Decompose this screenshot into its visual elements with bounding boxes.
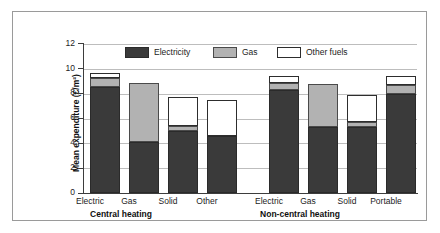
group-label-central-heating: Central heating <box>46 209 196 219</box>
legend-item-gas[interactable]: Gas <box>213 45 258 60</box>
y-tick-label-2: 2 <box>49 163 75 172</box>
bar-noncentral-electric[interactable] <box>269 76 299 193</box>
chart-frame: Mean expenditure (£/m²) 12 10 8 6 4 2 0 <box>12 11 427 221</box>
legend-label-gas: Gas <box>242 48 258 57</box>
y-tick-label-4: 4 <box>49 138 75 147</box>
bar-central-solid[interactable] <box>168 97 198 193</box>
bar-central-electric[interactable] <box>90 73 120 194</box>
chart-legend: Electricity Gas Other fuels <box>125 45 355 62</box>
bar-segment-electricity <box>129 142 159 193</box>
plot-area <box>84 44 417 193</box>
bar-segment-other-fuels <box>386 76 416 85</box>
x-label-noncentral-portable: Portable <box>359 196 413 206</box>
bar-noncentral-solid[interactable] <box>347 95 377 193</box>
chart-figure: Mean expenditure (£/m²) 12 10 8 6 4 2 0 <box>0 0 440 233</box>
bar-segment-electricity <box>347 127 377 193</box>
bar-segment-other-fuels <box>347 95 377 122</box>
legend-item-electricity[interactable]: Electricity <box>125 45 190 60</box>
bar-central-gas[interactable] <box>129 83 159 194</box>
gas-swatch-icon <box>213 47 237 58</box>
bar-central-other[interactable] <box>207 100 237 193</box>
bar-noncentral-portable[interactable] <box>386 76 416 193</box>
bar-segment-gas <box>90 78 120 88</box>
bar-segment-electricity <box>168 131 198 193</box>
gridline-10 <box>84 69 417 70</box>
bar-segment-gas <box>386 85 416 94</box>
y-tick-label-10: 10 <box>49 64 75 73</box>
bar-segment-electricity <box>90 87 120 193</box>
bar-segment-gas <box>269 83 299 90</box>
bar-noncentral-gas[interactable] <box>308 84 338 193</box>
group-label-non-central-heating: Non-central heating <box>225 209 375 219</box>
legend-label-other-fuels: Other fuels <box>306 48 348 57</box>
bar-segment-gas <box>129 83 159 143</box>
y-tick-label-6: 6 <box>49 113 75 122</box>
electricity-swatch-icon <box>125 47 149 58</box>
bar-segment-other-fuels <box>207 100 237 136</box>
bar-segment-other-fuels <box>168 97 198 126</box>
x-axis-line <box>83 193 418 194</box>
x-label-central-other: Other <box>180 196 234 206</box>
bar-segment-electricity <box>269 90 299 193</box>
legend-item-other-fuels[interactable]: Other fuels <box>277 45 348 60</box>
bar-segment-gas <box>308 84 338 128</box>
bar-segment-electricity <box>386 94 416 193</box>
legend-label-electricity: Electricity <box>154 48 190 57</box>
bar-segment-electricity <box>308 127 338 193</box>
y-axis-line <box>83 43 84 194</box>
y-tick-label-8: 8 <box>49 88 75 97</box>
y-tick-label-12: 12 <box>49 39 75 48</box>
other-fuels-swatch-icon <box>277 47 301 58</box>
bar-segment-electricity <box>207 136 237 193</box>
